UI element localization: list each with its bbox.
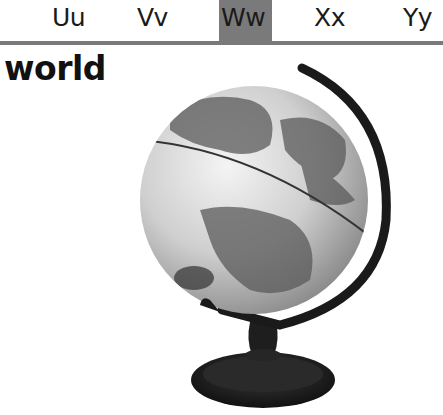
letter-ww: Ww: [221, 3, 265, 33]
divider-rule: [0, 41, 443, 45]
alphabet-strip: Uu Vv Ww Xx Yy: [0, 0, 443, 46]
globe-image: [130, 50, 443, 415]
letter-vv: Vv: [137, 3, 168, 33]
letter-xx: Xx: [314, 3, 345, 33]
letter-yy: Yy: [403, 3, 432, 33]
letter-uu: Uu: [52, 3, 85, 33]
vocabulary-word: world: [4, 49, 106, 89]
globe-icon: [130, 50, 443, 415]
